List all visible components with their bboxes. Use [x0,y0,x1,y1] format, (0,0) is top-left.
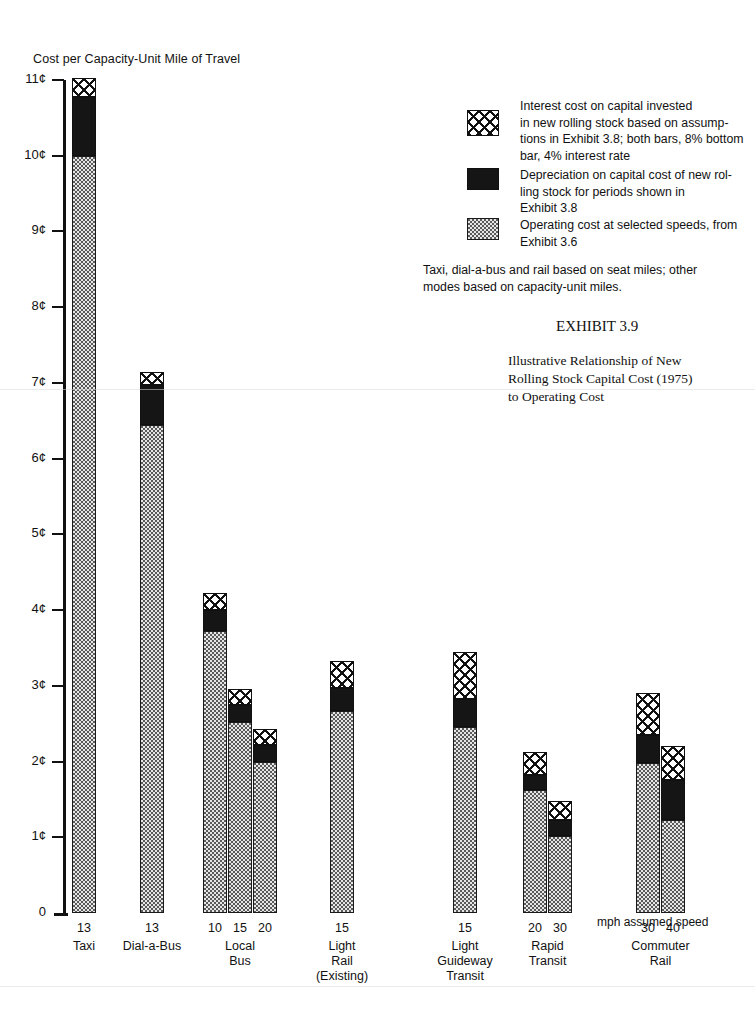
bar-segment-depreciation [636,735,660,763]
bar-segment-depreciation [661,780,685,820]
y-axis-label: 5¢ [14,525,46,540]
legend-footnote: Taxi, dial-a-bus and rail based on seat … [423,262,723,296]
bar-segment-operating [72,156,96,913]
bar-segment-interest [636,693,660,735]
page-rule-top [0,389,755,390]
mode-label: Local Bus [173,939,307,969]
bar-segment-operating [253,762,277,913]
bar-segment-depreciation [453,699,477,728]
bar-segment-depreciation [228,705,252,722]
bar-speed-label: 15 [447,921,483,935]
legend-swatch-operating [467,218,499,240]
bar-segment-operating [636,763,660,913]
legend-item-text: Operating cost at selected speeds, from … [520,217,750,250]
bar-segment-operating [228,722,252,913]
y-axis-title: Cost per Capacity-Unit Mile of Travel [33,52,240,66]
bar-segment-operating [548,836,572,913]
y-axis-tick [52,458,64,460]
bar-segment-interest [548,801,572,820]
exhibit-caption: Illustrative Relationship of New Rolling… [508,352,748,406]
mode-label: Light Rail (Existing) [300,939,384,984]
y-axis-label: 7¢ [14,374,46,389]
y-axis-label: 0 [14,904,46,919]
bar-segment-interest [140,372,164,386]
legend-item-text: Interest cost on capital invested in new… [520,98,750,164]
y-axis-tick [52,382,64,384]
y-axis-label: 6¢ [14,450,46,465]
y-axis-tick [52,306,64,308]
mph-assumed-speed-note: mph assumed speed [597,915,708,929]
bar-speed-label: 13 [66,921,102,935]
page-rule-bottom [0,986,755,987]
bar-segment-depreciation [203,610,227,631]
mode-label: Commuter Rail [606,939,715,969]
bar-segment-operating [140,425,164,913]
bar-segment-operating [330,711,354,913]
bar-segment-interest [253,729,277,745]
bar-speed-label: 13 [134,921,170,935]
legend-item-text: Depreciation on capital cost of new rol-… [520,167,750,217]
bar-segment-operating [453,727,477,913]
bar-segment-interest [453,652,477,699]
y-axis-label: 8¢ [14,298,46,313]
bar-segment-operating [661,820,685,913]
bar-segment-depreciation [523,775,547,790]
y-axis-tick [52,761,64,763]
y-axis-tick [52,155,64,157]
y-axis-label: 2¢ [14,753,46,768]
x-axis-line [54,913,68,916]
bar-segment-interest [203,593,227,610]
legend-swatch-depreciation [467,168,499,190]
bar-segment-interest [228,689,252,706]
bar-segment-interest [661,746,685,780]
y-axis-label: 1¢ [14,828,46,843]
bar-segment-depreciation [330,688,354,711]
bar-segment-depreciation [72,97,96,155]
bar-segment-interest [72,78,96,97]
bar-segment-depreciation [253,745,277,762]
bar-speed-label: 30 [542,921,578,935]
bar-speed-label: 15 [324,921,360,935]
bar-segment-operating [523,790,547,913]
y-axis-tick [52,533,64,535]
legend-swatch-interest [467,110,499,136]
y-axis-label: 10¢ [14,147,46,162]
y-axis-tick [52,836,64,838]
y-axis-tick [52,230,64,232]
bar-segment-operating [203,631,227,913]
bar-segment-depreciation [548,820,572,836]
y-axis-label: 3¢ [14,677,46,692]
y-axis-tick [52,685,64,687]
bar-segment-interest [330,661,354,688]
y-axis-label: 11¢ [14,71,46,86]
mode-label: Rapid Transit [493,939,602,969]
y-axis-line [63,80,66,916]
exhibit-3-9-chart: Cost per Capacity-Unit Mile of Travel 01… [0,0,755,1031]
bar-speed-label: 20 [247,921,283,935]
y-axis-label: 4¢ [14,601,46,616]
y-axis-tick [52,609,64,611]
y-axis-label: 9¢ [14,222,46,237]
bar-segment-depreciation [140,385,164,424]
bar-segment-interest [523,752,547,775]
y-axis-tick [52,79,64,81]
exhibit-number: EXHIBIT 3.9 [556,318,638,335]
